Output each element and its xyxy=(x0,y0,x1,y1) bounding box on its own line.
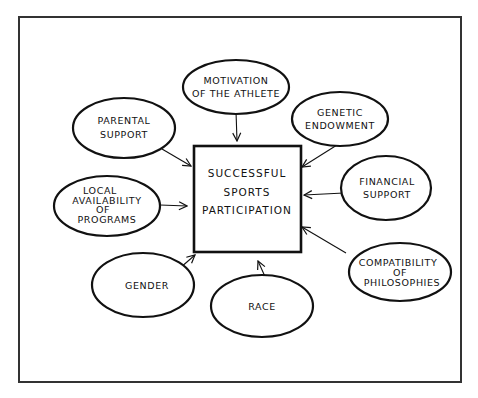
arrow-motivation xyxy=(236,111,237,141)
center-label-line-1: SUCCESSFUL xyxy=(208,167,287,179)
factor-label: PROGRAMS xyxy=(78,214,137,225)
factor-genetic: GENETIC ENDOWMENT xyxy=(292,92,388,146)
factor-label: MOTIVATION xyxy=(203,75,268,86)
arrow-compatibility xyxy=(302,227,346,253)
factor-label: OF THE ATHLETE xyxy=(192,88,280,99)
factor-label: ENDOWMENT xyxy=(305,120,375,131)
factor-compatibility: COMPATIBILITY OF PHILOSOPHIES xyxy=(349,243,451,301)
factor-local-availability: LOCAL AVAILABILITY OF PROGRAMS xyxy=(54,176,160,236)
factor-label: PHILOSOPHIES xyxy=(364,277,441,288)
factor-label: SUPPORT xyxy=(363,189,411,200)
factor-gender: GENDER xyxy=(92,253,194,317)
factor-label: SUPPORT xyxy=(100,129,148,140)
factor-motivation: MOTIVATION OF THE ATHLETE xyxy=(183,60,289,114)
factor-label: GENDER xyxy=(125,280,169,291)
arrow-parental xyxy=(162,149,191,166)
arrow-local xyxy=(160,205,187,206)
center-node: SUCCESSFUL SPORTS PARTICIPATION xyxy=(194,146,301,252)
factor-label: FINANCIAL xyxy=(359,176,415,187)
factor-race: RACE xyxy=(211,275,313,337)
influence-diagram: SUCCESSFUL SPORTS PARTICIPATION MOTIVATI… xyxy=(0,0,478,398)
center-label-line-2: SPORTS xyxy=(224,186,271,198)
arrow-genetic xyxy=(302,145,337,167)
arrow-financial xyxy=(304,193,344,195)
factor-label: RACE xyxy=(248,301,276,312)
factor-label: GENETIC xyxy=(317,107,363,118)
factor-financial: FINANCIAL SUPPORT xyxy=(341,156,431,220)
factor-parental: PARENTAL SUPPORT xyxy=(73,98,175,158)
factor-label: PARENTAL xyxy=(98,115,151,126)
center-label-line-3: PARTICIPATION xyxy=(202,204,292,216)
